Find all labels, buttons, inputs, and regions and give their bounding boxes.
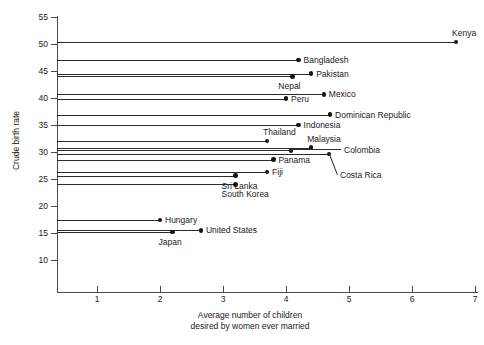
data-point-stem: [57, 141, 267, 142]
data-point-dot[interactable]: [271, 157, 276, 162]
data-point-dot[interactable]: [158, 218, 163, 223]
data-point-dot[interactable]: [265, 170, 270, 175]
data-point-label: Bangladesh: [304, 56, 349, 65]
y-tick: [51, 206, 57, 207]
x-tick-label: 3: [213, 295, 233, 304]
data-point-label: Indonesia: [304, 121, 341, 130]
data-point-dot[interactable]: [328, 112, 333, 117]
data-point-dot[interactable]: [170, 230, 175, 235]
y-tick-label: 35: [22, 121, 48, 130]
data-point-label: Malaysia: [307, 135, 341, 144]
data-point-label: South Korea: [222, 190, 269, 199]
data-point-label: Dominican Republic: [335, 111, 411, 120]
data-point-stem: [57, 115, 330, 116]
x-tick: [160, 286, 161, 292]
x-tick: [412, 286, 413, 292]
y-tick: [51, 233, 57, 234]
data-point-stem: [57, 42, 456, 43]
data-point-stem: [57, 184, 236, 185]
data-point-dot[interactable]: [265, 139, 270, 144]
data-point-stem: [57, 99, 286, 100]
y-tick-label: 55: [22, 13, 48, 22]
data-point-dot[interactable]: [284, 96, 289, 101]
x-axis-title-line-1: Average number of children: [140, 310, 360, 321]
data-point-stem: [57, 232, 173, 233]
y-tick-label: 30: [22, 148, 48, 157]
x-tick-label: 7: [465, 295, 484, 304]
data-point-stem: [57, 76, 292, 77]
x-tick: [97, 286, 98, 292]
data-point-label: Panama: [278, 156, 310, 165]
data-point-stem: [57, 60, 299, 61]
data-point-dot[interactable]: [454, 40, 459, 45]
y-tick-label: 45: [22, 67, 48, 76]
y-tick: [51, 71, 57, 72]
x-axis-title-line-2: desired by women ever married: [140, 321, 360, 332]
scatter-chart: Crude birth rate Average number of child…: [0, 0, 484, 345]
label-leader-line: [291, 149, 341, 150]
x-axis-title: Average number of children desired by wo…: [140, 310, 360, 332]
y-tick-label: 50: [22, 40, 48, 49]
y-tick-label: 20: [22, 202, 48, 211]
data-point-dot[interactable]: [309, 71, 314, 76]
data-point-dot[interactable]: [290, 74, 295, 79]
data-point-dot[interactable]: [296, 123, 301, 128]
data-point-stem: [57, 220, 160, 221]
y-tick-label: 25: [22, 175, 48, 184]
data-point-dot[interactable]: [233, 182, 238, 187]
data-point-stem: [57, 74, 311, 75]
data-point-dot[interactable]: [233, 173, 238, 178]
y-tick: [51, 152, 57, 153]
y-tick-label: 40: [22, 94, 48, 103]
x-tick-label: 2: [150, 295, 170, 304]
data-point-label: Mexico: [329, 90, 356, 99]
x-tick-label: 4: [276, 295, 296, 304]
x-tick: [349, 286, 350, 292]
data-point-stem: [57, 125, 299, 126]
data-point-stem: [57, 148, 311, 149]
data-point-label: Hungary: [165, 216, 197, 225]
data-point-stem: [57, 150, 291, 151]
data-point-dot[interactable]: [199, 228, 204, 233]
y-tick: [51, 260, 57, 261]
x-tick: [475, 286, 476, 292]
label-leader-line: [329, 154, 338, 175]
y-axis-title: Crude birth rate: [12, 86, 21, 196]
data-point-label: Fiji: [272, 168, 283, 177]
y-tick: [51, 179, 57, 180]
data-point-label: Kenya: [452, 29, 476, 38]
data-point-label: Colombia: [344, 146, 380, 155]
data-point-label: Peru: [291, 95, 309, 104]
y-tick: [51, 44, 57, 45]
data-point-dot[interactable]: [322, 92, 327, 97]
data-point-label: Nepal: [278, 82, 300, 91]
data-point-label: Pakistan: [316, 70, 349, 79]
data-point-stem: [57, 160, 273, 161]
data-point-label: Costa Rica: [340, 171, 382, 180]
x-axis-line: [57, 292, 478, 293]
data-point-label: United States: [206, 226, 257, 235]
data-point-stem: [57, 176, 236, 177]
x-tick-label: 1: [87, 295, 107, 304]
data-point-label: Thailand: [263, 128, 296, 137]
data-point-dot[interactable]: [296, 58, 301, 63]
x-tick-label: 5: [339, 295, 359, 304]
x-tick: [286, 286, 287, 292]
y-tick-label: 10: [22, 256, 48, 265]
y-tick-label: 15: [22, 229, 48, 238]
x-tick: [223, 286, 224, 292]
y-tick: [51, 17, 57, 18]
x-tick-label: 6: [402, 295, 422, 304]
data-point-label: Japan: [159, 238, 182, 247]
data-point-stem: [57, 94, 324, 95]
